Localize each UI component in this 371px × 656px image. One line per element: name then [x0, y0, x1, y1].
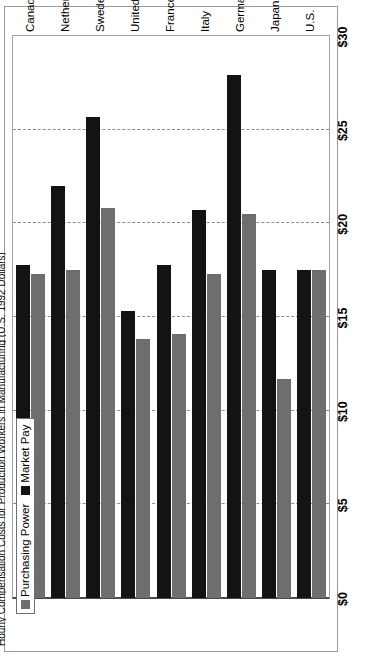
- bar-market-pay: [121, 311, 135, 598]
- category-label: United Kingdom: [129, 0, 141, 32]
- bar-purchasing-power: [172, 334, 186, 598]
- category-label: Japan: [269, 1, 281, 32]
- legend-swatch-purchasing-power-icon: [21, 600, 30, 609]
- bar-market-pay: [157, 265, 171, 598]
- bar-purchasing-power: [136, 339, 150, 598]
- bar-market-pay: [86, 117, 100, 598]
- category-label: France: [164, 0, 176, 32]
- legend-swatch-market-pay-icon: [21, 486, 30, 495]
- value-axis-label: $15: [336, 308, 350, 329]
- bar-purchasing-power: [101, 208, 115, 598]
- gridline-25: [13, 129, 329, 130]
- value-axis-label: $5: [336, 498, 350, 512]
- bar-chart: Hourly Compensation Costs for Production…: [0, 0, 371, 656]
- bar-purchasing-power: [312, 270, 326, 598]
- value-axis-label: $30: [336, 27, 350, 48]
- bar-purchasing-power: [242, 214, 256, 598]
- value-axis-label: $10: [336, 401, 350, 422]
- bar-market-pay: [51, 186, 65, 598]
- category-label: Canada: [24, 0, 36, 32]
- category-label: U.S.: [304, 10, 316, 32]
- bar-purchasing-power: [207, 274, 221, 598]
- bar-purchasing-power: [277, 379, 291, 598]
- legend-item-market-pay: Market Pay: [19, 425, 31, 495]
- legend-label-purchasing-power: Purchasing Power: [19, 504, 31, 597]
- value-axis-label: $0: [336, 592, 350, 606]
- chart-legend: Purchasing Power Market Pay: [16, 419, 35, 615]
- category-label: Netherlands: [59, 0, 71, 32]
- bar-market-pay: [192, 210, 206, 598]
- category-label: Sweden: [94, 0, 106, 32]
- chart-title: Hourly Compensation Costs for Production…: [0, 16, 6, 646]
- legend-item-purchasing-power: Purchasing Power: [19, 504, 31, 609]
- value-axis-label: $20: [336, 214, 350, 235]
- legend-label-market-pay: Market Pay: [19, 425, 31, 483]
- rotated-chart-wrapper: Hourly Compensation Costs for Production…: [0, 0, 371, 656]
- bar-market-pay: [227, 75, 241, 598]
- bar-market-pay: [297, 270, 311, 598]
- bar-purchasing-power: [66, 270, 80, 598]
- value-axis-label: $25: [336, 120, 350, 141]
- category-label: Germany: [234, 0, 246, 32]
- category-label: Italy: [199, 11, 211, 32]
- bar-market-pay: [262, 270, 276, 598]
- category-axis: U.S.JapanGermanyItalyFranceUnited Kingdo…: [12, 2, 330, 32]
- plot-area: [12, 35, 330, 599]
- gridline-30: [13, 35, 329, 36]
